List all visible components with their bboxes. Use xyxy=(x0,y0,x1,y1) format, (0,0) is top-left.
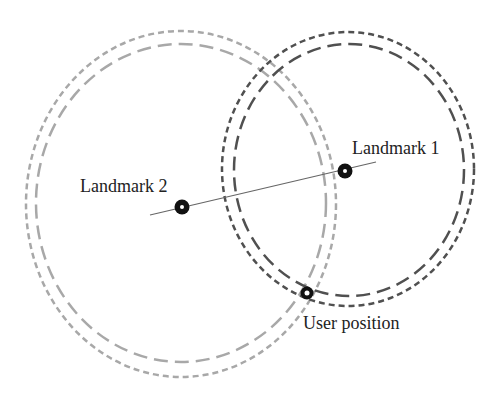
landmark-1-label: Landmark 1 xyxy=(352,138,439,159)
trilateration-diagram: Landmark 1 Landmark 2 User position xyxy=(0,0,502,394)
diagram-graphic xyxy=(0,0,502,394)
user-position-marker-icon xyxy=(301,287,314,300)
landmark-2-label: Landmark 2 xyxy=(80,176,167,197)
landmark-2-marker-icon xyxy=(175,200,190,215)
landmark-1-marker-icon xyxy=(338,164,353,179)
user-position-label: User position xyxy=(303,313,400,334)
